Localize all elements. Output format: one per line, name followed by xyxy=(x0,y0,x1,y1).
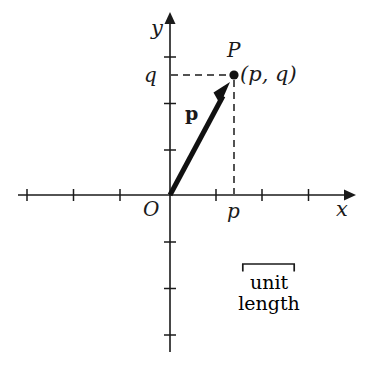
origin-label: O xyxy=(143,199,159,219)
point-p-marker xyxy=(229,70,238,79)
vector-p-label: p xyxy=(185,104,198,123)
point-p-coordinates-label: (p, q) xyxy=(240,64,297,85)
p-tick-label: p xyxy=(227,201,240,221)
y-axis-label: y xyxy=(151,18,163,39)
vector-diagram-figure: y x O p q P (p, q) p unit length xyxy=(0,0,370,367)
unit-length-caption-line1: unit xyxy=(214,272,324,293)
unit-length-caption-line2: length xyxy=(214,293,324,314)
point-p-label: P xyxy=(227,40,240,60)
q-tick-label: q xyxy=(144,65,157,85)
unit-length-caption: unit length xyxy=(214,272,324,315)
x-axis-label: x xyxy=(336,199,348,220)
y-axis-arrowhead xyxy=(165,12,176,24)
